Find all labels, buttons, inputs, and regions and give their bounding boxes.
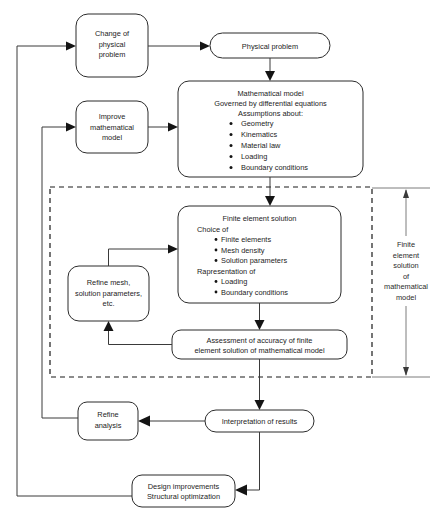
node-heading-line-2: Governed by differential equations — [214, 99, 327, 108]
bullet-dot — [230, 144, 233, 147]
node-refine-mesh[interactable]: Refine mesh, solution parameters, etc. — [68, 266, 149, 321]
connector-refine-mesh-to-fe-solution — [109, 249, 169, 266]
bullet-dot — [215, 259, 218, 262]
node-bullet-5: Boundary conditions — [221, 288, 288, 297]
node-bullet-5: Boundary conditions — [241, 163, 308, 172]
node-label: Physical problem — [242, 42, 298, 51]
dimension-label-line-6: model — [396, 293, 416, 302]
node-label-line-2: physical — [99, 40, 126, 49]
node-shape — [132, 475, 235, 507]
node-label-line-1: Change of — [95, 29, 130, 38]
arrowhead-into-math-model-left — [168, 123, 178, 132]
bullet-dot — [230, 122, 233, 125]
node-refine-analysis[interactable]: Refine analysis — [78, 402, 138, 440]
node-bullet-3: Solution parameters — [221, 256, 287, 265]
dimension-label-line-1: Finite — [397, 240, 415, 249]
node-label-line-1: Refine — [97, 410, 118, 419]
node-label-line-2: element solution of mathematical model — [194, 346, 325, 355]
node-label-line-1: Improve — [99, 112, 126, 121]
dimension-label-line-3: solution — [393, 261, 418, 270]
node-label-line-3: model — [102, 133, 122, 142]
arrowhead-into-assessment — [255, 320, 265, 330]
dimension-arrowhead-bottom — [403, 367, 409, 376]
flowchart-svg: Change of physical problem Physical prob… — [0, 0, 445, 523]
node-bullet-3: Material law — [241, 141, 281, 150]
bullet-dot — [215, 249, 218, 252]
node-label-line-1: Refine mesh, — [87, 278, 131, 287]
arrowhead-into-physical-problem — [200, 42, 210, 51]
connector-interpretation-to-design-improvements — [247, 432, 260, 490]
arrowhead-into-refine-mesh — [104, 321, 114, 331]
arrowhead-into-math-model — [265, 71, 275, 81]
node-heading-line-1: Mathematical model — [237, 89, 303, 98]
bullet-dot — [230, 155, 233, 158]
node-design-improvements[interactable]: Design improvements Structural optimizat… — [132, 475, 235, 507]
flowchart-canvas: Change of physical problem Physical prob… — [0, 0, 445, 523]
bullet-dot — [230, 133, 233, 136]
node-bullet-1: Geometry — [241, 119, 274, 128]
node-bullet-4: Loading — [221, 277, 247, 286]
arrowhead-into-refine-analysis — [138, 416, 150, 427]
node-label-line-1: Design improvements — [148, 482, 220, 491]
bullet-dot — [215, 280, 218, 283]
node-heading: Finite element solution — [223, 214, 297, 223]
node-label-line-2: Structural optimization — [147, 492, 220, 501]
node-bullet-2: Kinematics — [241, 130, 277, 139]
node-change-of-physical-problem[interactable]: Change of physical problem — [76, 14, 148, 77]
dimension-label-line-5: mathematical — [384, 282, 428, 291]
arrowhead-into-improve-model — [66, 123, 76, 132]
bullet-dot — [215, 291, 218, 294]
node-label-line-3: etc. — [103, 299, 115, 308]
node-bullet-2: Mesh density — [221, 246, 265, 255]
arrowhead-into-change-physical — [66, 42, 76, 51]
node-subheading-2: Rapresentation of — [197, 267, 256, 276]
node-label-line-1: Assessment of accuracy of finite — [207, 336, 313, 345]
dimension-label-line-4: of — [403, 272, 410, 281]
node-finite-element-solution[interactable]: Finite element solution Choice of Finite… — [178, 206, 341, 303]
bullet-dot — [215, 238, 218, 241]
node-label: Interpretation of results — [222, 417, 298, 426]
node-interpretation-of-results[interactable]: Interpretation of results — [205, 410, 314, 432]
node-mathematical-model[interactable]: Mathematical model Governed by different… — [178, 81, 363, 177]
arrowhead-into-design-improvements — [235, 485, 247, 496]
node-label-line-2: solution parameters, — [75, 289, 142, 298]
arrowhead-into-fe-solution — [265, 196, 275, 206]
node-label-line-2: mathematical — [90, 123, 134, 132]
node-subheading-1: Choice of — [197, 225, 229, 234]
node-heading-line-3: Assumptions about: — [238, 109, 303, 118]
node-bullet-4: Loading — [241, 152, 267, 161]
dimension-label-line-2: element — [393, 251, 419, 260]
node-assessment-of-accuracy[interactable]: Assessment of accuracy of finite element… — [172, 330, 347, 359]
node-label-line-2: analysis — [95, 421, 122, 430]
arrowhead-into-interpretation — [255, 400, 265, 410]
dimension-arrowhead-top — [403, 189, 409, 198]
connector-assessment-to-refine-mesh — [109, 331, 173, 345]
bullet-dot — [230, 166, 233, 169]
node-physical-problem[interactable]: Physical problem — [210, 33, 330, 58]
node-label-line-3: problem — [99, 50, 126, 59]
arrowhead-into-fe-solution-left — [168, 245, 178, 254]
node-bullet-1: Finite elements — [221, 235, 271, 244]
node-improve-mathematical-model[interactable]: Improve mathematical model — [76, 101, 148, 153]
